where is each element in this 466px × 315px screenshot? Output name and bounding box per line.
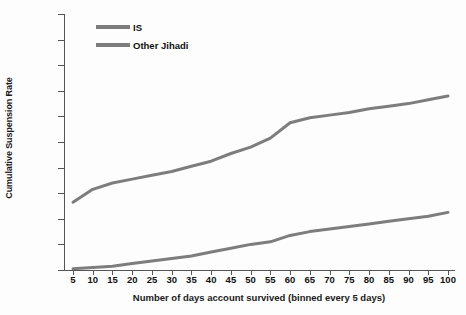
legend-label-is: IS <box>133 22 142 33</box>
x-tick-mark <box>310 271 311 275</box>
x-tick-mark <box>112 271 113 275</box>
legend-item-other-jihadi: Other Jihadi <box>96 36 188 54</box>
legend-swatch-other-jihadi <box>96 43 130 47</box>
x-tick-mark <box>448 271 449 275</box>
x-tick-mark <box>231 271 232 275</box>
x-tick-mark <box>369 271 370 275</box>
x-tick-mark <box>290 271 291 275</box>
legend-label-other-jihadi: Other Jihadi <box>133 40 188 51</box>
legend-swatch-is <box>96 25 130 29</box>
x-tick-mark <box>330 271 331 275</box>
series-line-is <box>73 96 448 202</box>
x-tick-mark <box>409 271 410 275</box>
x-tick-mark <box>191 271 192 275</box>
chart-legend: IS Other Jihadi <box>96 18 188 54</box>
x-tick-mark <box>211 271 212 275</box>
x-tick-mark <box>270 271 271 275</box>
x-tick-mark <box>132 271 133 275</box>
legend-item-is: IS <box>96 18 188 36</box>
x-tick-mark <box>251 271 252 275</box>
chart-figure: Cumulative Suspension Rate 0%10%20%30%40… <box>0 0 466 315</box>
y-axis-title: Cumulative Suspension Rate <box>0 0 18 275</box>
x-axis-title: Number of days account survived (binned … <box>64 292 454 303</box>
x-tick-mark <box>73 271 74 275</box>
x-tick-mark <box>93 271 94 275</box>
x-tick-mark <box>389 271 390 275</box>
x-tick-mark <box>152 271 153 275</box>
series-line-other-jihadi <box>73 212 448 268</box>
x-tick-label: 100 <box>435 274 461 285</box>
y-axis-title-text: Cumulative Suspension Rate <box>4 77 14 198</box>
x-tick-mark <box>428 271 429 275</box>
x-tick-mark <box>172 271 173 275</box>
x-axis-line <box>64 270 455 271</box>
x-tick-mark <box>349 271 350 275</box>
